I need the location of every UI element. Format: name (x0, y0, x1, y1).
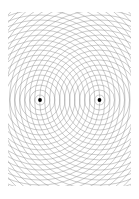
focus-dot-right-focus (98, 98, 102, 102)
figure-root: Two-source concentric circle interferenc… (0, 0, 139, 199)
concentric-circles-diagram: Two-source concentric circle interferenc… (0, 0, 139, 199)
focus-dot-left-focus (38, 98, 42, 102)
